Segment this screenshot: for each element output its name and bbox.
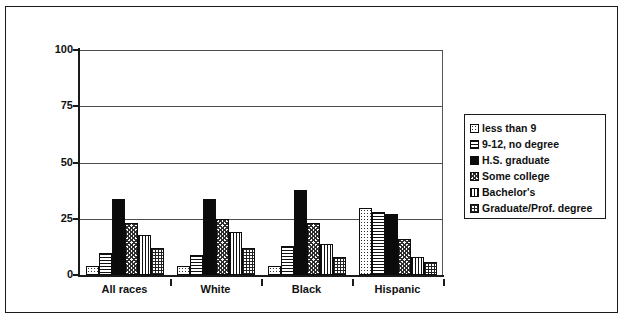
bar bbox=[398, 239, 411, 275]
bar bbox=[320, 244, 333, 276]
bar-group bbox=[359, 50, 437, 275]
legend-item[interactable]: 9-12, no degree bbox=[470, 136, 601, 152]
bar bbox=[138, 235, 151, 276]
bar bbox=[372, 212, 385, 275]
bar bbox=[359, 208, 372, 276]
bar bbox=[307, 223, 320, 275]
bar bbox=[177, 266, 190, 275]
bar-group bbox=[177, 50, 255, 275]
legend-item[interactable]: Graduate/Prof. degree bbox=[470, 200, 601, 216]
legend-item-label: H.S. graduate bbox=[482, 155, 550, 166]
bar bbox=[424, 262, 437, 276]
y-tick-label-25: 25 bbox=[61, 213, 73, 224]
legend-item[interactable]: H.S. graduate bbox=[470, 152, 601, 168]
bar bbox=[99, 253, 112, 276]
bar bbox=[151, 248, 164, 275]
bar bbox=[216, 219, 229, 275]
legend-swatch-icon bbox=[470, 188, 479, 197]
legend-item[interactable]: Some college bbox=[470, 168, 601, 184]
bar bbox=[125, 223, 138, 275]
bar bbox=[203, 199, 216, 276]
chart-legend: less than 99-12, no degreeH.S. graduateS… bbox=[464, 114, 606, 219]
y-axis-labels: 0255075100 bbox=[28, 7, 73, 324]
bar bbox=[242, 248, 255, 275]
x-category-label: Hispanic bbox=[352, 283, 443, 295]
y-tick-label-100: 100 bbox=[55, 44, 73, 55]
legend-item-label: less than 9 bbox=[482, 123, 536, 134]
chart-frame: 0255075100 All racesWhiteBlackHispanic l… bbox=[5, 6, 618, 313]
x-category-label: Black bbox=[261, 283, 352, 295]
bar bbox=[190, 255, 203, 275]
legend-swatch-icon bbox=[470, 140, 479, 149]
bar bbox=[385, 214, 398, 275]
legend-item-label: Bachelor's bbox=[482, 187, 535, 198]
bar bbox=[281, 246, 294, 275]
legend-item-label: 9-12, no degree bbox=[482, 139, 559, 150]
x-category-label: White bbox=[170, 283, 261, 295]
bar-group bbox=[268, 50, 346, 275]
bar bbox=[333, 257, 346, 275]
bar bbox=[112, 199, 125, 276]
bar bbox=[294, 190, 307, 276]
x-axis-category-labels: All racesWhiteBlackHispanic bbox=[79, 279, 443, 299]
legend-swatch-icon bbox=[470, 172, 479, 181]
x-category-label: All races bbox=[79, 283, 170, 295]
legend-item[interactable]: Bachelor's bbox=[470, 184, 601, 200]
x-tick bbox=[443, 279, 445, 286]
bar-group bbox=[86, 50, 164, 275]
bar bbox=[229, 232, 242, 275]
legend-swatch-icon bbox=[470, 204, 479, 213]
legend-item-label: Some college bbox=[482, 171, 550, 182]
legend-swatch-icon bbox=[470, 156, 479, 165]
legend-item-label: Graduate/Prof. degree bbox=[482, 203, 592, 214]
y-tick-label-50: 50 bbox=[61, 157, 73, 168]
bar bbox=[411, 257, 424, 275]
legend-item[interactable]: less than 9 bbox=[470, 120, 601, 136]
bar-series-container bbox=[79, 50, 443, 275]
y-tick-label-75: 75 bbox=[61, 100, 73, 111]
bar bbox=[268, 266, 281, 275]
bar bbox=[86, 266, 99, 275]
x-axis-line bbox=[78, 275, 444, 277]
legend-swatch-icon bbox=[470, 124, 479, 133]
